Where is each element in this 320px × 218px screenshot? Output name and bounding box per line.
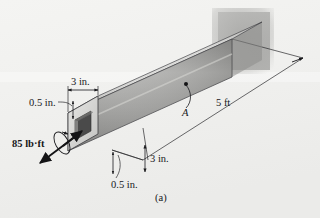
label-width-top: 3 in. — [71, 77, 90, 88]
label-length: 5 ft — [216, 98, 230, 109]
label-point-a: A — [182, 108, 188, 119]
label-height-side: 3 in. — [150, 154, 169, 165]
label-wall-thickness-bottom: 0.5 in. — [111, 180, 138, 191]
figure-caption: (a) — [155, 193, 167, 204]
figure-canvas — [0, 0, 320, 218]
label-wall-thickness-top: 0.5 in. — [29, 98, 56, 109]
label-torque: 85 lb·ft — [12, 139, 44, 150]
